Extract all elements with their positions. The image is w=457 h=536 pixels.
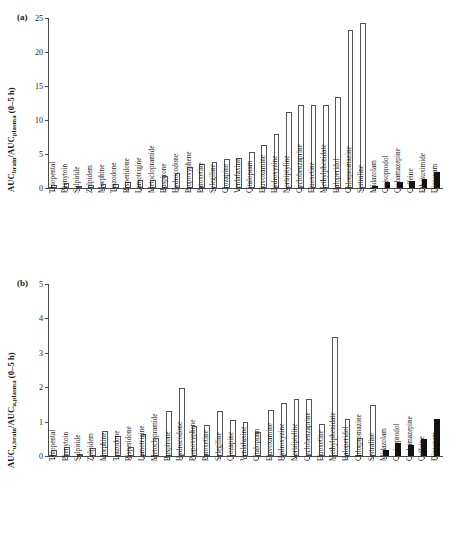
y-tick-label: 5 [24, 150, 43, 159]
x-tick-label: Hydroxyzine [278, 423, 286, 461]
x-tick-label: Midazolam [370, 160, 378, 193]
x-tick-label: Carisoprodol [382, 155, 390, 193]
x-tick-label: Diazepam [431, 432, 439, 461]
x-tick-label: Caffeine [418, 436, 426, 461]
x-tick-label: Midazolam [380, 428, 388, 461]
chart-panel-b: (b) AUCu,brain/AUCu,plasma (0–5 h) 01234… [0, 268, 457, 536]
x-tick-label: Hydroxyzine [271, 155, 279, 193]
x-tick-label: Sertraline [368, 433, 376, 461]
x-tick-label: Carisoprodol [393, 423, 401, 461]
x-tick-label: Phenytoin [62, 432, 70, 461]
x-tick-label: Nortriptyline [283, 155, 291, 193]
figure-container: (a) AUCbrain/AUCplasma (0–5 h) 051015202… [0, 0, 457, 536]
x-tick-label: Fluoxetine [317, 430, 325, 461]
x-tick-label: Caffeine [407, 168, 415, 193]
x-tick-label: Cyclobenzaprine [304, 412, 312, 461]
x-tick-label: Buspirone [160, 163, 168, 193]
x-tick-label: Citalopram [246, 161, 254, 193]
x-tick-label: Paroxetine [202, 430, 210, 461]
x-tick-label: Clozapine [222, 164, 230, 193]
x-tick-label: Chlorpromazine [345, 146, 353, 193]
x-tick-label: Metoclopramide [148, 145, 156, 193]
x-tick-label: Zolpidem [87, 433, 95, 461]
x-tick-label: Zolpidem [86, 165, 94, 193]
x-tick-label: Citalopram [253, 429, 261, 461]
y-tick-label: 4 [24, 314, 43, 323]
x-tick-label: Methylphenidate [329, 412, 337, 461]
y-tick-mark [45, 318, 48, 319]
y-tick-label: 0 [24, 184, 43, 193]
x-tick-label: Metoclopramide [151, 413, 159, 461]
x-tick-label: Hydrocodone [176, 422, 184, 461]
y-tick-mark [45, 18, 48, 19]
x-tick-label: Haloperidol [333, 159, 341, 193]
x-tick-label: Lamotrigine [135, 157, 143, 193]
y-tick-label: 2 [24, 383, 43, 392]
y-tick-mark [45, 52, 48, 53]
x-tick-label: Thiopental [49, 162, 57, 193]
x-tick-label: Fluvoxamine [259, 155, 267, 193]
x-tick-label: Venlafaxine [234, 159, 242, 193]
x-tick-label: Ethosuximide [419, 153, 427, 193]
bar-sertraline [360, 23, 366, 188]
y-tick-label: 10 [24, 116, 43, 125]
y-tick-label: 15 [24, 82, 43, 91]
y-tick-mark [45, 456, 48, 457]
y-tick-mark [45, 353, 48, 354]
y-tick-mark [45, 154, 48, 155]
x-tick-label: Fluoxetine [308, 162, 316, 193]
y-tick-mark [45, 86, 48, 87]
x-tick-label: Lamotrigine [138, 425, 146, 461]
y-tick-mark [45, 188, 48, 189]
y-tick-mark [45, 387, 48, 388]
x-tick-label: Fluvoxamine [266, 423, 274, 461]
x-tick-label: Selegiline [209, 164, 217, 193]
x-tick-label: Diazepam [431, 164, 439, 193]
x-tick-label: Trazodone [113, 431, 121, 461]
y-tick-label: 3 [24, 348, 43, 357]
x-tick-label: Chlorpromazine [355, 414, 363, 461]
x-tick-label: Phenytoin [61, 164, 69, 193]
y-tick-label: 25 [24, 14, 43, 23]
x-tick-label: Risperidone [123, 158, 131, 193]
x-tick-label: Cyclobenzaprine [296, 144, 304, 193]
x-tick-label: Morphine [98, 165, 106, 193]
y-tick-label: 20 [24, 48, 43, 57]
y-tick-mark [45, 422, 48, 423]
x-tick-label: Thiopental [49, 430, 57, 461]
x-tick-label: Paroxetine [197, 162, 205, 193]
x-tick-label: Selegiline [215, 432, 223, 461]
x-tick-label: Propoxyphene [185, 151, 193, 193]
x-tick-label: Morphine [100, 433, 108, 461]
x-tick-label: Methylphenidate [320, 144, 328, 193]
x-tick-label: Sertraline [357, 165, 365, 193]
x-tick-label: Propoxyphene [189, 419, 197, 461]
y-tick-mark [45, 284, 48, 285]
x-tick-label: Haloperidol [342, 427, 350, 461]
x-tick-label: Buspirone [164, 431, 172, 461]
x-tick-label: Clozapine [227, 432, 235, 461]
x-tick-label: Sulpiride [74, 435, 82, 461]
x-tick-label: Risperidone [125, 426, 133, 461]
chart-panel-a: (a) AUCbrain/AUCplasma (0–5 h) 051015202… [0, 0, 457, 268]
x-tick-label: Carbamazepine [406, 416, 414, 461]
x-tick-label: Venlafaxine [240, 427, 248, 461]
x-tick-label: Hydrocodone [172, 154, 180, 193]
y-tick-label: 1 [24, 417, 43, 426]
y-tick-mark [45, 120, 48, 121]
y-tick-label: 5 [24, 280, 43, 289]
x-tick-label: Nortriptyline [291, 423, 299, 461]
panel-b-y-axis-label: AUCu,brain/AUCu,plasma (0–5 h) [6, 288, 17, 468]
panel-a-y-axis-label: AUCbrain/AUCplasma (0–5 h) [6, 22, 17, 192]
x-tick-label: Trazodone [110, 163, 118, 193]
x-tick-label: Carbamazepine [394, 148, 402, 193]
x-tick-label: Sulpiride [73, 167, 81, 193]
y-tick-label: 0 [24, 452, 43, 461]
